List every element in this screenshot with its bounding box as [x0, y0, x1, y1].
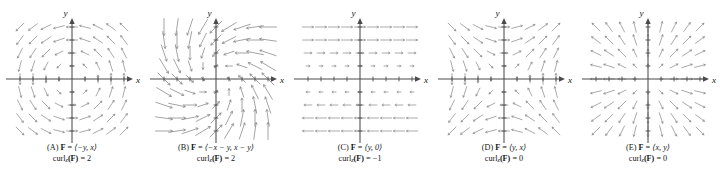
- field-arrow: [107, 36, 115, 44]
- field-arrow: [606, 127, 613, 136]
- field-arrow: [539, 24, 548, 31]
- field-arrow: [604, 102, 613, 108]
- field-arrow: [19, 87, 22, 98]
- field-arrow: [682, 50, 691, 56]
- x-axis-arrowhead: [703, 76, 709, 81]
- field-arrow: [633, 113, 636, 123]
- field-arrow: [552, 127, 560, 135]
- field-arrow: [540, 100, 546, 109]
- field-arrow: [461, 114, 469, 122]
- vector-field-plot-B: xy: [144, 0, 288, 145]
- field-arrow: [528, 88, 532, 96]
- curl-equals-A: =: [80, 154, 85, 163]
- field-arrow: [682, 64, 692, 67]
- field-arrow: [200, 33, 207, 47]
- field-arrow: [107, 128, 116, 135]
- field-arrow: [489, 90, 493, 94]
- panel-B: xy (B) F = ⟨−x − y, x − y⟩ curlz(F) = 2: [144, 0, 288, 188]
- field-arrow: [670, 64, 678, 68]
- field-arrow: [539, 114, 547, 122]
- field-arrow: [486, 116, 496, 119]
- field-arrow: [696, 37, 705, 44]
- field-arrow: [476, 62, 480, 70]
- field-arrow: [121, 36, 128, 45]
- vector-field-plot-C: xy: [288, 0, 432, 145]
- field-arrow: [604, 90, 614, 93]
- field-arrow: [93, 115, 102, 121]
- x-axis-arrowhead: [559, 76, 565, 81]
- field-arrow: [618, 90, 626, 94]
- field-arrow: [541, 87, 544, 97]
- field-arrow: [660, 22, 663, 33]
- curl-value-A: 2: [87, 154, 91, 163]
- curl-arg-E: (F): [644, 154, 654, 163]
- y-axis-arrowhead: [213, 18, 218, 24]
- field-arrow: [462, 48, 468, 57]
- field-arrow: [157, 88, 172, 97]
- field-arrow: [591, 103, 601, 108]
- field-arrow: [122, 100, 127, 110]
- field-arrow: [620, 22, 625, 32]
- field-arrow: [684, 23, 691, 32]
- field-arrow: [539, 128, 548, 135]
- field-arrow: [248, 63, 262, 70]
- axes: [6, 18, 133, 143]
- field-arrow: [55, 103, 63, 107]
- field-arrow: [525, 115, 534, 121]
- field-arrow: [451, 61, 454, 72]
- field-arrow: [591, 65, 602, 68]
- field-arrow: [54, 116, 64, 119]
- field-arrow: [122, 48, 127, 58]
- curl-label-D: curl: [485, 154, 498, 163]
- field-arrow: [42, 101, 50, 109]
- vector-field-plot-A: xy: [0, 0, 144, 145]
- field-arrow: [80, 38, 90, 41]
- field-arrow: [123, 61, 126, 72]
- field-arrow: [606, 23, 613, 32]
- field-arrow: [473, 37, 482, 43]
- curl-label-C: curl: [339, 154, 352, 163]
- field-arrow: [44, 88, 48, 96]
- field-arrow: [109, 87, 112, 97]
- curl-value-C: −1: [373, 154, 382, 163]
- field-arrow: [605, 114, 613, 122]
- field-arrow: [672, 126, 677, 136]
- field-arrow: [696, 115, 705, 122]
- field-arrow: [108, 48, 114, 57]
- x-axis-label: x: [279, 75, 284, 85]
- field-arrow: [553, 36, 560, 45]
- curl-value-B: 2: [231, 154, 235, 163]
- curl-label-A: curl: [53, 154, 66, 163]
- field-arrow: [225, 124, 234, 139]
- field-arrow: [17, 114, 24, 123]
- field-arrow: [487, 51, 495, 55]
- field-arrow: [94, 101, 102, 109]
- field-arrow: [449, 114, 456, 123]
- panel-C: xy (C) F = ⟨y, 0⟩ curlz(F) = −1: [288, 0, 432, 188]
- x-axis-label: x: [711, 75, 716, 85]
- field-arrow: [552, 23, 560, 31]
- field-arrow: [31, 87, 34, 97]
- field-arrow: [29, 36, 37, 44]
- field-arrow: [30, 48, 36, 57]
- y-axis-arrowhead: [357, 18, 362, 24]
- x-axis-label: x: [135, 75, 140, 85]
- field-arrow: [555, 61, 558, 72]
- field-arrow: [515, 64, 519, 68]
- field-arrow: [696, 127, 704, 135]
- y-axis-label: y: [351, 8, 356, 18]
- x-axis-arrowhead: [415, 76, 421, 81]
- caption-D: (D) F = ⟨y, x⟩ curlz(F) = 0: [432, 143, 576, 165]
- curl-equals-C: =: [366, 154, 371, 163]
- field-arrow: [123, 87, 126, 98]
- field-arrow: [80, 130, 91, 133]
- curl-equals-B: =: [224, 154, 229, 163]
- field-arrow: [473, 129, 483, 134]
- field-arrow: [83, 64, 87, 68]
- field-arrow: [41, 25, 51, 30]
- field-arrow: [553, 114, 560, 123]
- field-arrow: [121, 114, 128, 123]
- field-arrow: [660, 126, 663, 137]
- field-arrow: [462, 100, 468, 109]
- field-arrow: [18, 48, 23, 58]
